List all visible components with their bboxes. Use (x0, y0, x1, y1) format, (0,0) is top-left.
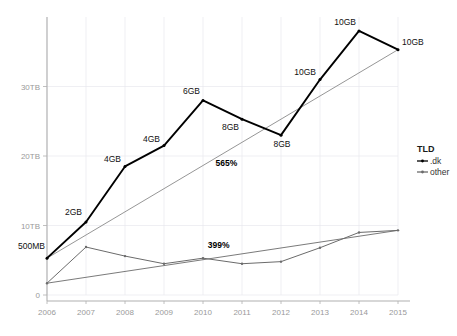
legend-item-.dk[interactable]: .dk (430, 156, 442, 166)
y-axis-tick-label: 10TB (21, 222, 40, 231)
y-axis-tick-label: 0 (36, 291, 41, 300)
horizontal-gridlines (47, 87, 398, 296)
x-axis-tick-label: 2013 (311, 308, 329, 317)
point-label: 8GB (273, 139, 290, 149)
legend-marker-dot-.dk (421, 160, 424, 163)
data-point-.dk (319, 78, 322, 81)
point-label: 6GB (183, 86, 200, 96)
point-label: 8GB (222, 122, 239, 132)
data-point-other (202, 257, 204, 259)
chart-legend: TLD .dkother (417, 144, 450, 177)
series-line-.dk (47, 31, 398, 258)
chart-container: 010TB20TB30TB 20062007200820092010201120… (0, 0, 457, 336)
point-label: 2GB (65, 207, 82, 217)
growth-annotations-group: 565%399% (208, 158, 238, 250)
y-axis-tick-label: 20TB (21, 152, 40, 161)
data-point-.dk (241, 118, 244, 121)
point-label: 10GB (334, 17, 356, 27)
legend-marker-dot-other (421, 171, 424, 174)
data-point-other (241, 263, 243, 265)
y-axis-tick-label: 30TB (21, 83, 40, 92)
data-point-other (358, 231, 360, 233)
point-labels-group: 500MB2GB4GB4GB6GB8GB8GB10GB10GB10GB (18, 17, 424, 251)
data-point-.dk (124, 165, 127, 168)
data-point-.dk (358, 29, 361, 32)
legend-item-other[interactable]: other (430, 167, 450, 177)
x-axis-tick-label: 2008 (116, 308, 134, 317)
data-point-.dk (46, 257, 49, 260)
data-point-.dk (280, 134, 283, 137)
line-chart-svg: 010TB20TB30TB 20062007200820092010201120… (0, 0, 457, 336)
x-axis-tick-label: 2009 (155, 308, 173, 317)
point-label: 500MB (18, 241, 45, 251)
data-point-other (397, 229, 399, 231)
data-point-other (85, 246, 87, 248)
data-point-other (319, 247, 321, 249)
legend-entries: .dkother (417, 156, 450, 177)
point-label: 10GB (402, 37, 424, 47)
x-axis-tick-label: 2011 (233, 308, 251, 317)
growth-annotation-565%: 565% (216, 158, 238, 168)
x-axis-ticks: 2006200720082009201020112012201320142015 (38, 301, 407, 317)
point-label: 4GB (104, 154, 121, 164)
y-axis-ticks: 010TB20TB30TB (21, 83, 47, 301)
data-point-.dk (397, 48, 400, 51)
data-point-.dk (202, 99, 205, 102)
point-label: 10GB (294, 67, 316, 77)
x-axis-tick-label: 2014 (350, 308, 368, 317)
point-label: 4GB (143, 134, 160, 144)
data-point-.dk (163, 144, 166, 147)
x-axis-tick-label: 2010 (194, 308, 212, 317)
data-point-other (46, 282, 48, 284)
x-axis-tick-label: 2015 (389, 308, 407, 317)
growth-annotation-399%: 399% (208, 240, 230, 250)
x-axis-tick-label: 2012 (272, 308, 290, 317)
data-point-.dk (85, 221, 88, 224)
x-axis-tick-label: 2006 (38, 308, 56, 317)
legend-title: TLD (417, 144, 435, 154)
data-point-other (124, 255, 126, 257)
x-axis-tick-label: 2007 (77, 308, 95, 317)
trendline-.dk-trend (47, 50, 398, 259)
data-point-other (163, 263, 165, 265)
data-point-other (280, 260, 282, 262)
